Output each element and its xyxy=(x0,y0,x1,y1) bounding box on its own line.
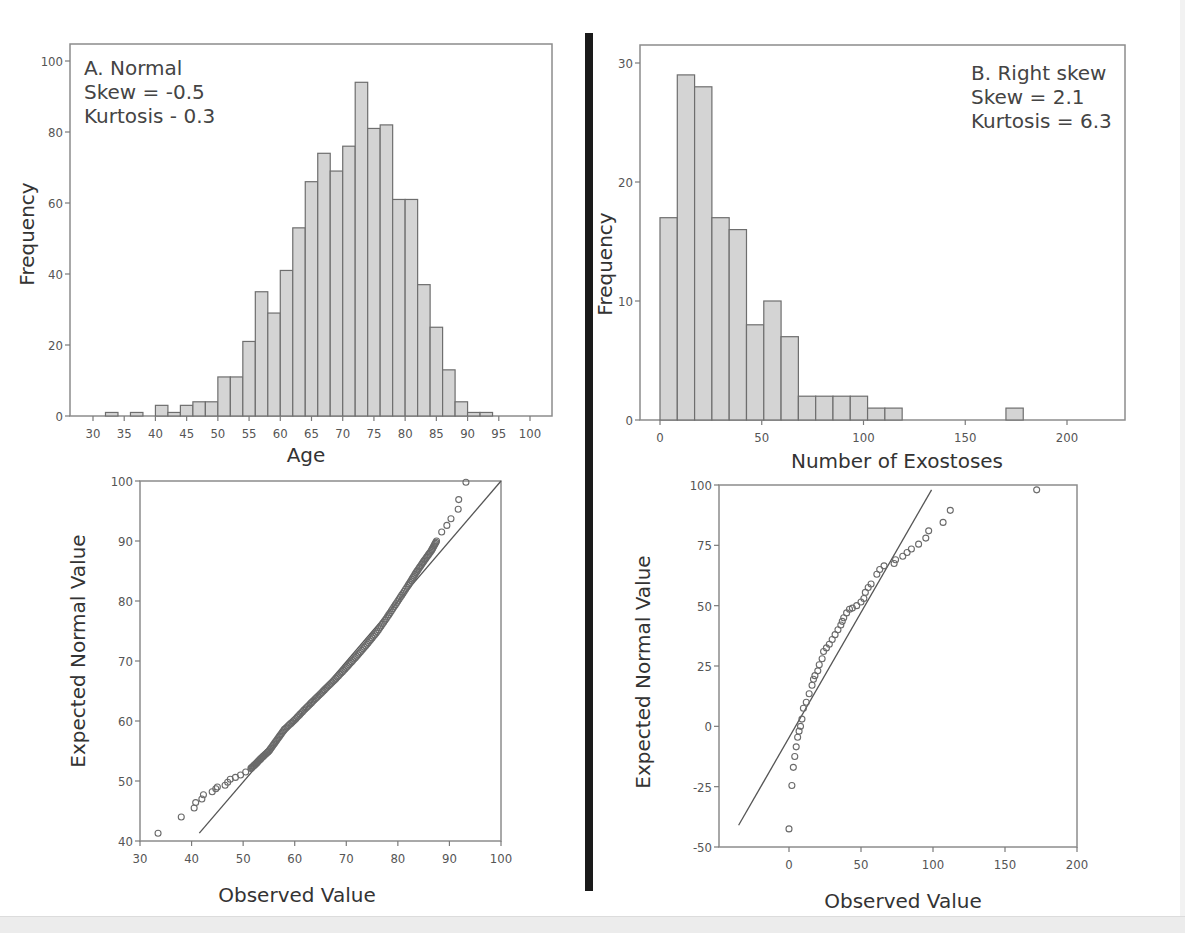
histogram-bars xyxy=(105,82,492,416)
data-point xyxy=(789,782,795,788)
y-tick-label: 80 xyxy=(48,125,63,140)
y-axis-label: Frequency xyxy=(15,182,39,285)
x-tick-label: 85 xyxy=(429,426,444,441)
qq-plot-b: 050100150200 -50-250255075100 Observed V… xyxy=(631,478,1088,913)
data-point xyxy=(816,662,822,668)
y-tick-label: 10 xyxy=(618,294,633,309)
x-tick-label: 200 xyxy=(1056,430,1078,445)
x-tick-label: 200 xyxy=(1066,857,1088,872)
y-tick-label: 20 xyxy=(618,175,633,190)
x-tick-label: 50 xyxy=(754,430,769,445)
y-tick-label: 50 xyxy=(697,599,712,614)
histogram-bar xyxy=(230,377,242,416)
x-axis: 3035404550556065707580859095100 xyxy=(70,416,541,441)
histogram-bar xyxy=(816,396,833,420)
histogram-bar xyxy=(455,402,467,416)
histogram-bar xyxy=(243,341,255,416)
annotation-kurtosis: Kurtosis = 6.3 xyxy=(971,109,1112,133)
x-tick-label: 150 xyxy=(954,430,976,445)
x-tick-label: 150 xyxy=(994,857,1016,872)
reference-line xyxy=(199,481,501,833)
x-tick-label: 30 xyxy=(133,851,148,866)
histogram-bar xyxy=(746,325,763,420)
data-point xyxy=(891,560,897,566)
histogram-bar xyxy=(868,408,885,420)
histogram-bar xyxy=(833,396,850,420)
x-tick-label: 100 xyxy=(922,857,944,872)
data-point xyxy=(455,506,461,512)
x-tick-label: 35 xyxy=(117,426,132,441)
x-tick-label: 50 xyxy=(210,426,225,441)
x-tick-label: 0 xyxy=(785,857,792,872)
histogram-bar xyxy=(180,405,192,416)
data-point xyxy=(786,826,792,832)
data-point xyxy=(193,800,199,806)
histogram-bar xyxy=(677,75,694,420)
histogram-bars xyxy=(660,75,1023,420)
data-point xyxy=(803,699,809,705)
histogram-bar xyxy=(443,370,455,416)
x-tick-label: 40 xyxy=(148,426,163,441)
y-tick-label: 75 xyxy=(697,538,712,553)
x-tick-label: 0 xyxy=(656,430,663,445)
y-tick-label: 50 xyxy=(118,774,133,789)
y-tick-label: 40 xyxy=(118,834,133,849)
y-tick-label: -50 xyxy=(693,840,712,855)
reference-line xyxy=(739,490,932,825)
x-tick-label: 40 xyxy=(184,851,199,866)
data-point xyxy=(463,479,469,485)
x-tick-label: 55 xyxy=(242,426,257,441)
plot-frame xyxy=(140,481,501,841)
y-tick-label: 20 xyxy=(48,338,63,353)
y-tick-label: 60 xyxy=(118,714,133,729)
histogram-bar xyxy=(268,313,280,416)
data-point xyxy=(795,734,801,740)
fit-line xyxy=(739,490,932,825)
data-point xyxy=(809,682,815,688)
data-points xyxy=(155,479,469,836)
histogram-bar xyxy=(130,412,142,416)
histogram-bar xyxy=(368,128,380,416)
x-tick-label: 80 xyxy=(390,851,405,866)
histogram-bar xyxy=(781,337,798,420)
data-point xyxy=(806,691,812,697)
x-tick-label: 100 xyxy=(852,430,874,445)
plot-frame xyxy=(719,485,1077,847)
data-point xyxy=(916,541,922,547)
histogram-bar xyxy=(885,408,902,420)
y-tick-label: 30 xyxy=(618,56,633,71)
histogram-bar xyxy=(764,301,781,420)
x-axis-label: Observed Value xyxy=(218,883,376,907)
x-axis: 050100150200 xyxy=(640,420,1078,445)
histogram-bar xyxy=(293,228,305,416)
annotation-kurtosis: Kurtosis - 0.3 xyxy=(84,104,215,128)
x-tick-label: 45 xyxy=(179,426,194,441)
data-point xyxy=(908,546,914,552)
y-tick-label: -25 xyxy=(693,780,712,795)
y-tick-label: 60 xyxy=(48,196,63,211)
data-point xyxy=(444,522,450,528)
data-point xyxy=(940,519,946,525)
x-tick-label: 60 xyxy=(287,851,302,866)
histogram-bar xyxy=(405,199,417,416)
y-tick-label: 100 xyxy=(41,54,63,69)
x-tick-label: 90 xyxy=(442,851,457,866)
data-point xyxy=(214,784,220,790)
x-axis-label: Number of Exostoses xyxy=(791,449,1003,473)
histogram-bar xyxy=(255,292,267,416)
data-point xyxy=(926,528,932,534)
histogram-a-normal: 3035404550556065707580859095100 02040608… xyxy=(15,44,552,467)
data-point xyxy=(819,656,825,662)
histogram-bar xyxy=(712,218,729,420)
data-point xyxy=(923,535,929,541)
y-tick-label: 40 xyxy=(48,267,63,282)
histogram-bar xyxy=(155,405,167,416)
data-point xyxy=(1034,487,1040,493)
qq-plot-a: 30405060708090100 405060708090100 Observ… xyxy=(66,474,512,907)
y-tick-label: 100 xyxy=(690,478,712,493)
histogram-bar xyxy=(393,199,405,416)
annotation-title: B. Right skew xyxy=(971,61,1106,85)
data-point xyxy=(839,618,845,624)
x-tick-label: 30 xyxy=(86,426,101,441)
